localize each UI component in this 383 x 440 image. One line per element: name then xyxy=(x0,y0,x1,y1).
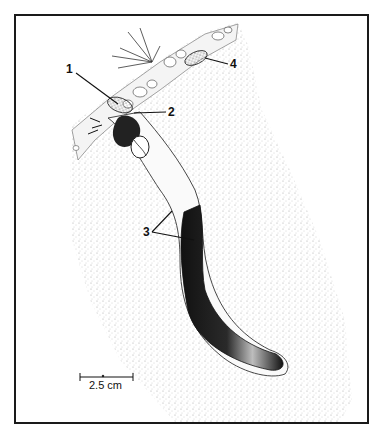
burrow-illustration xyxy=(0,0,383,440)
label-3: 3 xyxy=(143,226,150,238)
label-4: 4 xyxy=(230,58,237,70)
soil-block xyxy=(70,22,352,422)
scale-bar-label: 2.5 cm xyxy=(89,380,122,391)
label-1: 1 xyxy=(66,63,73,75)
grass-tuft xyxy=(112,28,160,68)
label-2: 2 xyxy=(168,106,175,118)
